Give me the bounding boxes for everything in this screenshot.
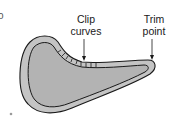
clip-curves-label-line1: Clip — [64, 13, 108, 25]
trim-point-label-line1: Trim — [134, 13, 174, 25]
trim-point-arrow — [150, 39, 154, 60]
trim-point-label-line2: point — [134, 25, 174, 37]
clip-curves-label-line2: curves — [64, 25, 108, 37]
clip-curves-label: Clip curves — [64, 13, 108, 37]
pattern-diagram: o Clip curves — [0, 0, 178, 131]
trim-point-label: Trim point — [134, 13, 174, 37]
clip-curves-arrow — [82, 39, 86, 61]
scan-speck — [10, 113, 13, 116]
